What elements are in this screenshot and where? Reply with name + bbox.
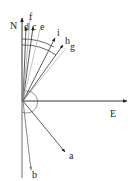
label-E: E [110, 108, 116, 119]
label-h: h [65, 35, 70, 46]
label-b: b [32, 169, 37, 180]
vector-b [23, 101, 31, 170]
vector-h [23, 45, 63, 101]
vector-a [23, 101, 65, 152]
vector-diagram: N E a b c d e f g h i [0, 0, 132, 181]
label-a: a [69, 150, 74, 161]
label-c: c [32, 21, 37, 32]
label-g: g [70, 41, 75, 52]
label-i: i [57, 27, 60, 38]
label-d: d [24, 21, 29, 32]
outer-arc [22, 39, 54, 47]
label-e: e [40, 21, 45, 32]
label-N: N [10, 20, 17, 31]
